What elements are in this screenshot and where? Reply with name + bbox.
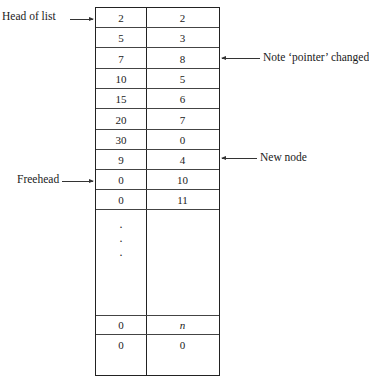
- value-cell: 5: [96, 28, 146, 47]
- table-row: 0 11: [96, 190, 219, 210]
- table-row: 5 3: [96, 28, 219, 48]
- linked-list-table: 2 2 5 3 7 8 10 5 15 6 20 7 30 0 9 4 0 10…: [95, 7, 220, 376]
- ellipsis-dot: ·: [96, 221, 146, 233]
- pointer-cell: 11: [146, 190, 219, 209]
- value-cell: 0: [96, 335, 146, 355]
- pointer-cell: n: [146, 316, 219, 334]
- table-row: 0 0: [96, 335, 219, 374]
- new-node-arrow: [222, 158, 257, 159]
- pointer-cell: 0: [146, 130, 219, 149]
- value-cell: 7: [96, 49, 146, 68]
- head-of-list-arrow: [70, 19, 93, 20]
- ellipsis-dot: ·: [96, 235, 146, 247]
- value-cell: 15: [96, 89, 146, 108]
- table-row: 30 0: [96, 130, 219, 150]
- value-cell: 0: [96, 316, 146, 334]
- value-cell: 30: [96, 130, 146, 149]
- pointer-cell: 7: [146, 110, 219, 129]
- ellipsis-dot: ·: [96, 249, 146, 261]
- pointer-changed-arrow: [222, 58, 260, 59]
- value-cell: 10: [96, 69, 146, 88]
- value-cell: 0: [96, 170, 146, 189]
- value-cell: 2: [96, 8, 146, 27]
- table-row: 9 4: [96, 150, 219, 170]
- head-of-list-label: Head of list: [2, 10, 56, 22]
- freehead-label: Freehead: [17, 173, 59, 185]
- table-row: 10 5: [96, 69, 219, 89]
- pointer-cell: 2: [146, 8, 219, 27]
- table-row: 7 8: [96, 49, 219, 69]
- value-cell: 20: [96, 110, 146, 129]
- new-node-label: New node: [260, 151, 307, 163]
- pointer-cell: 4: [146, 150, 219, 169]
- pointer-cell: 6: [146, 89, 219, 108]
- table-row: 0 10: [96, 170, 219, 190]
- pointer-cell: 3: [146, 28, 219, 47]
- pointer-changed-label: Note ‘pointer’ changed: [263, 51, 369, 63]
- table-row: 0 n: [96, 315, 219, 335]
- table-row: 2 2: [96, 8, 219, 28]
- value-cell: 9: [96, 150, 146, 169]
- table-row: 20 7: [96, 110, 219, 130]
- pointer-cell: 10: [146, 170, 219, 189]
- freehead-arrow: [62, 181, 93, 182]
- pointer-cell: 5: [146, 69, 219, 88]
- value-cell: 0: [96, 190, 146, 209]
- pointer-cell: 0: [146, 335, 219, 355]
- pointer-cell: 8: [146, 49, 219, 68]
- table-row: 15 6: [96, 89, 219, 109]
